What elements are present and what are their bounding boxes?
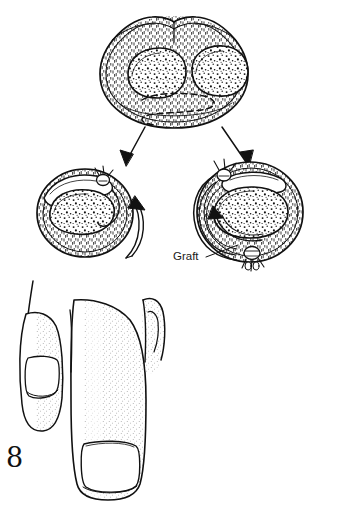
digit-center <box>66 294 152 506</box>
figure-number: 8 <box>6 444 23 471</box>
transfer-arrow-right <box>222 127 253 166</box>
digit-donor-site <box>10 281 175 506</box>
transfer-arrow-left <box>120 127 145 166</box>
recipient-left-rotated <box>37 166 145 258</box>
figure-canvas: Graft 8 <box>0 0 339 509</box>
surgical-illustration-svg <box>0 0 339 509</box>
graft-lobe-right <box>192 46 248 96</box>
donor-cross-section <box>100 16 248 128</box>
digit-left <box>10 300 80 445</box>
graft-lobe-left <box>128 48 186 98</box>
recipient-right-grafted <box>194 159 303 271</box>
graft-label: Graft <box>173 251 199 263</box>
